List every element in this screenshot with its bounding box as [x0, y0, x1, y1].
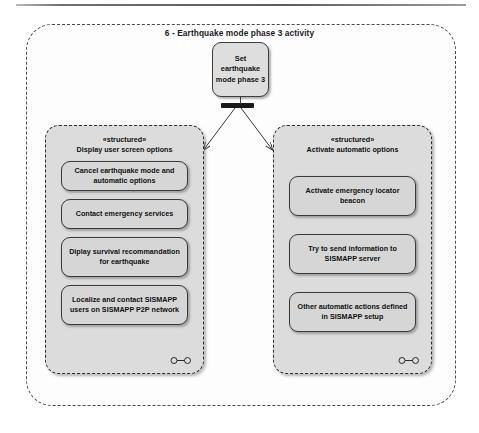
action-node[interactable]: Diplay survival recommandation for earth… — [61, 237, 188, 277]
action-node[interactable]: Cancel earthquake mode and automatic opt… — [61, 161, 188, 191]
page-title: 6 - Earthquake mode phase 3 activity — [0, 28, 479, 38]
action-node[interactable]: Other automatic actions defined in SISMA… — [289, 292, 416, 332]
structured-region-header: «structured» Display user screen options — [46, 126, 203, 154]
expansion-region-marker-icon — [398, 356, 420, 365]
fork-node-bar — [221, 103, 254, 108]
action-node[interactable]: Contact emergency services — [61, 199, 188, 229]
structured-region-name: Activate automatic options — [307, 145, 399, 154]
structured-region-display-user-screen-options[interactable]: «structured» Display user screen options… — [45, 125, 204, 374]
start-action-node[interactable]: Set earthquake mode phase 3 — [212, 42, 269, 97]
page-top-rule — [16, 4, 466, 6]
expansion-region-marker-icon — [170, 356, 192, 365]
action-list: Cancel earthquake mode and automatic opt… — [46, 161, 203, 325]
uml-activity-diagram-page: { "diagram": { "title": "6 - Earthquake … — [0, 0, 479, 433]
action-node[interactable]: Activate emergency locator beacon — [289, 176, 416, 216]
stereotype-label: «structured» — [46, 135, 203, 145]
stereotype-label: «structured» — [274, 135, 431, 145]
structured-region-name: Display user screen options — [77, 145, 173, 154]
action-node[interactable]: Try to send information to SISMAPP serve… — [289, 234, 416, 274]
structured-region-activate-automatic-options[interactable]: «structured» Activate automatic options … — [273, 125, 432, 374]
action-list: Activate emergency locator beacon Try to… — [274, 176, 431, 332]
action-node[interactable]: Localize and contact SISMAPP users on SI… — [61, 285, 188, 325]
structured-region-header: «structured» Activate automatic options — [274, 126, 431, 154]
